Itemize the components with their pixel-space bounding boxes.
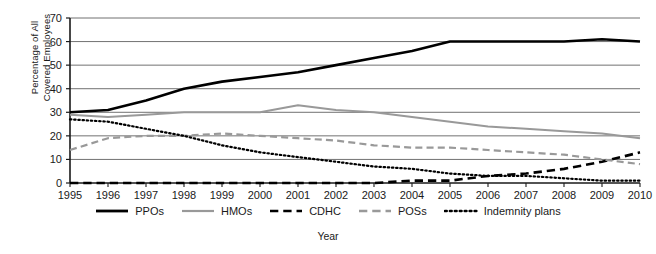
legend-item-indemnity-plans[interactable]: Indemnity plans bbox=[444, 205, 561, 217]
x-tick-label: 2005 bbox=[438, 189, 462, 201]
x-tick-label: 2001 bbox=[286, 189, 310, 201]
x-axis-title: Year bbox=[0, 230, 656, 242]
legend-item-ppos[interactable]: PPOs bbox=[95, 205, 164, 217]
x-tick-label: 2008 bbox=[552, 189, 576, 201]
y-tick-label: 50 bbox=[50, 59, 62, 71]
x-tick-label: 2002 bbox=[324, 189, 348, 201]
legend-swatch-dashed bbox=[269, 206, 303, 216]
legend-label: PPOs bbox=[135, 205, 164, 217]
legend-label: Indemnity plans bbox=[484, 205, 561, 217]
legend-label: CDHC bbox=[309, 205, 341, 217]
legend-label: POSs bbox=[398, 205, 427, 217]
x-tick-label: 1997 bbox=[134, 189, 158, 201]
y-tick-label: 20 bbox=[50, 130, 62, 142]
x-tick-label: 2010 bbox=[628, 189, 652, 201]
legend-item-cdhc[interactable]: CDHC bbox=[269, 205, 341, 217]
legend-swatch-solid bbox=[95, 206, 129, 216]
y-axis-tick-labels: 010203040506070 bbox=[50, 12, 70, 189]
data-series-group bbox=[70, 39, 640, 183]
x-tick-label: 2004 bbox=[400, 189, 424, 201]
x-tick-label: 2003 bbox=[362, 189, 386, 201]
x-tick-label: 1998 bbox=[172, 189, 196, 201]
legend-swatch-solid bbox=[181, 206, 215, 216]
x-tick-label: 2000 bbox=[248, 189, 272, 201]
y-tick-label: 60 bbox=[50, 36, 62, 48]
x-tick-label: 1996 bbox=[96, 189, 120, 201]
x-tick-label: 2007 bbox=[514, 189, 538, 201]
y-tick-label: 0 bbox=[56, 177, 62, 189]
chart-figure: Percentage of All Covered Employees 0102… bbox=[0, 0, 656, 254]
series-line-indemnity-plans bbox=[70, 119, 640, 180]
legend-item-hmos[interactable]: HMOs bbox=[181, 205, 252, 217]
series-line-ppos bbox=[70, 39, 640, 112]
y-tick-label: 30 bbox=[50, 106, 62, 118]
x-tick-label: 2009 bbox=[590, 189, 614, 201]
gridlines bbox=[70, 18, 640, 159]
y-tick-label: 10 bbox=[50, 153, 62, 165]
legend-item-poss[interactable]: POSs bbox=[358, 205, 427, 217]
y-tick-label: 70 bbox=[50, 12, 62, 24]
x-tick-label: 2006 bbox=[476, 189, 500, 201]
chart-legend: PPOsHMOsCDHCPOSsIndemnity plans bbox=[0, 205, 656, 217]
x-axis-tick-labels: 1995199619971998199920002001200220032004… bbox=[58, 183, 652, 201]
x-tick-label: 1999 bbox=[210, 189, 234, 201]
x-tick-label: 1995 bbox=[58, 189, 82, 201]
y-tick-label: 40 bbox=[50, 83, 62, 95]
legend-swatch-dotted bbox=[444, 206, 478, 216]
series-line-hmos bbox=[70, 105, 640, 138]
legend-swatch-dashed bbox=[358, 206, 392, 216]
legend-label: HMOs bbox=[221, 205, 252, 217]
